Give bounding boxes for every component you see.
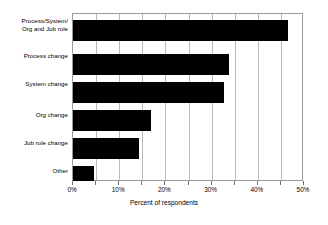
tick-mark-25 <box>188 181 189 185</box>
tick-mark-40 <box>257 181 258 185</box>
category-label-process-change: Process change <box>2 52 68 60</box>
tick-mark-5 <box>95 181 96 185</box>
x-axis-title: Percent of respondents <box>0 199 328 206</box>
bar-row <box>73 82 302 103</box>
bar-process-change <box>73 54 229 75</box>
bar-job-role-change <box>73 138 139 159</box>
tick-label-10: 10% <box>103 186 133 194</box>
category-label-job-role-change: Job role change <box>2 139 68 147</box>
tick-label-50: 50% <box>288 186 318 194</box>
tick-label-20: 20% <box>149 186 179 194</box>
bar-process-system-org-and-job-role <box>73 20 288 41</box>
tick-label-40: 40% <box>242 186 272 194</box>
bars-layer <box>73 14 302 180</box>
tick-mark-35 <box>234 181 235 185</box>
plot-area <box>72 13 303 181</box>
tick-mark-50 <box>303 181 304 185</box>
bar-row <box>73 20 302 41</box>
bar-chart: Process/System/ Org and Job role Process… <box>0 0 328 225</box>
tick-mark-0 <box>72 181 73 185</box>
bar-row <box>73 54 302 75</box>
category-label-org-change: Org change <box>2 111 68 119</box>
category-label-system-change: System change <box>2 80 68 88</box>
category-label-process-system-org-and-job-role: Process/System/ Org and Job role <box>2 17 68 32</box>
bar-other <box>73 166 94 181</box>
bar-row <box>73 110 302 131</box>
bar-system-change <box>73 82 224 103</box>
tick-mark-30 <box>211 181 212 185</box>
tick-mark-45 <box>280 181 281 185</box>
bar-row <box>73 166 302 181</box>
bar-row <box>73 138 302 159</box>
tick-label-30: 30% <box>196 186 226 194</box>
category-label-other: Other <box>2 167 68 175</box>
tick-mark-10 <box>118 181 119 185</box>
tick-mark-20 <box>164 181 165 185</box>
tick-label-0: 0% <box>57 186 87 194</box>
tick-mark-15 <box>141 181 142 185</box>
bar-org-change <box>73 110 151 131</box>
